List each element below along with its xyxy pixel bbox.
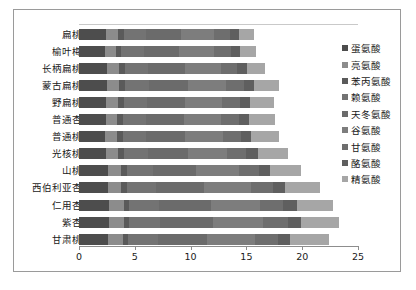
x-axis-line xyxy=(79,246,358,247)
bar-segment xyxy=(125,80,150,91)
bar-segment xyxy=(211,200,260,211)
bar-segment xyxy=(127,182,156,193)
bar-segment xyxy=(79,200,109,211)
bar-segment xyxy=(144,46,180,57)
bar-segment xyxy=(156,182,204,193)
bar-segment xyxy=(185,63,221,74)
x-axis-tick-label: 20 xyxy=(296,251,308,262)
legend-item[interactable]: 蛋氨酸 xyxy=(342,40,402,56)
x-axis-tick-label: 10 xyxy=(185,251,197,262)
legend: 蛋氨酸亮氨酸苯丙氨酸赖氨酸天冬氨酸谷氨酸甘氨酸酪氨酸精氨酸 xyxy=(342,40,402,188)
bar-segment xyxy=(109,200,124,211)
bar-segment xyxy=(222,97,240,108)
bar-segment xyxy=(285,182,320,193)
stacked-bar xyxy=(79,182,320,193)
stacked-bar xyxy=(79,131,279,142)
category-label: 野扁桃 xyxy=(0,94,82,111)
legend-swatch-icon xyxy=(342,144,348,150)
category-label: 光核桃 xyxy=(0,145,82,162)
stacked-bar xyxy=(79,29,254,40)
stacked-bar xyxy=(79,217,339,228)
bar-segment xyxy=(246,148,257,159)
bar-segment xyxy=(214,29,230,40)
bar-segment xyxy=(247,63,265,74)
legend-item[interactable]: 酪氨酸 xyxy=(342,155,402,171)
bar-segment xyxy=(301,217,339,228)
bar-segment xyxy=(221,114,239,125)
bar-segment xyxy=(79,80,107,91)
category-label: 西伯利亚杏 xyxy=(0,179,82,196)
legend-item[interactable]: 苯丙氨酸 xyxy=(342,73,402,89)
bar-segment xyxy=(185,131,223,142)
legend-label: 蛋氨酸 xyxy=(351,41,381,55)
bar-segment xyxy=(230,29,239,40)
category-label: 普通桃 xyxy=(0,128,82,145)
bar-segment xyxy=(105,46,116,57)
bar-segment xyxy=(125,63,148,74)
chart-frame: 扁桃榆叶梅长柄扁桃蒙古扁桃野扁桃普通杏普通桃光核桃山桃西伯利亚杏仁用杏紫杏甘肃桃… xyxy=(13,9,401,272)
legend-swatch-icon xyxy=(342,160,348,166)
bar-segment xyxy=(226,80,244,91)
bar-segment xyxy=(188,80,226,91)
x-axis-tick xyxy=(358,246,359,250)
bar-segment xyxy=(160,217,212,228)
bar-segment xyxy=(297,200,334,211)
bar-segment xyxy=(179,46,214,57)
bar-segment xyxy=(241,131,251,142)
legend-item[interactable]: 赖氨酸 xyxy=(342,89,402,105)
bar-segment xyxy=(123,114,146,125)
x-axis-tick xyxy=(135,246,136,250)
x-axis-tick xyxy=(246,246,247,250)
category-label: 榆叶梅 xyxy=(0,43,82,60)
x-axis-tick xyxy=(191,246,192,250)
bar-segment xyxy=(123,131,146,142)
bar-segment xyxy=(290,234,329,245)
bar-segment xyxy=(146,114,184,125)
category-label: 山桃 xyxy=(0,162,82,179)
bar-segment xyxy=(250,97,275,108)
bar-segment xyxy=(278,234,290,245)
bar-row: 仁用杏 xyxy=(14,197,402,214)
bar-segment xyxy=(158,234,207,245)
legend-swatch-icon xyxy=(342,45,348,51)
x-axis-tick xyxy=(79,246,80,250)
bar-segment xyxy=(79,46,105,57)
bar-segment xyxy=(184,114,221,125)
bar-segment xyxy=(106,29,118,40)
stacked-bar xyxy=(79,165,301,176)
bar-segment xyxy=(240,97,250,108)
bar-segment xyxy=(240,46,257,57)
category-label: 普通杏 xyxy=(0,111,82,128)
legend-item[interactable]: 谷氨酸 xyxy=(342,122,402,138)
bar-segment xyxy=(188,148,227,159)
legend-item[interactable]: 天冬氨酸 xyxy=(342,106,402,122)
legend-label: 赖氨酸 xyxy=(351,90,381,104)
bar-segment xyxy=(79,131,105,142)
legend-item[interactable]: 精氨酸 xyxy=(342,171,402,187)
legend-swatch-icon xyxy=(342,176,348,182)
legend-item[interactable]: 亮氨酸 xyxy=(342,56,402,72)
stacked-bar xyxy=(79,63,265,74)
legend-swatch-icon xyxy=(342,111,348,117)
x-axis-tick-label: 0 xyxy=(76,251,82,262)
legend-swatch-icon xyxy=(342,127,348,133)
bar-segment xyxy=(147,97,185,108)
legend-item[interactable]: 甘氨酸 xyxy=(342,138,402,154)
bar-segment xyxy=(107,63,119,74)
legend-label: 甘氨酸 xyxy=(351,140,381,154)
bar-segment xyxy=(239,29,255,40)
plot-top-border xyxy=(79,24,358,25)
bar-segment xyxy=(108,182,121,193)
category-label: 扁桃 xyxy=(0,26,82,43)
bar-segment xyxy=(129,200,159,211)
category-label: 甘肃桃 xyxy=(0,231,82,248)
category-label: 蒙古扁桃 xyxy=(0,77,82,94)
stacked-bar xyxy=(79,80,279,91)
stacked-bar xyxy=(79,234,329,245)
bar-segment xyxy=(128,234,158,245)
x-axis-tick xyxy=(302,246,303,250)
bar-segment xyxy=(259,165,270,176)
bar-segment xyxy=(79,97,106,108)
bar-segment xyxy=(79,148,106,159)
bar-segment xyxy=(196,165,238,176)
